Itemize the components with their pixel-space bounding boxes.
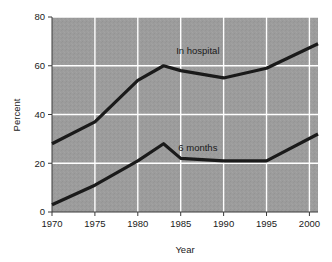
y-tick-label: 60 <box>34 60 45 71</box>
x-tick-label: 1985 <box>170 218 191 229</box>
x-tick-label: 1975 <box>84 218 105 229</box>
x-axis-label: Year <box>175 244 194 255</box>
x-tick-label: 1970 <box>41 218 62 229</box>
x-tick-label: 2000 <box>299 218 320 229</box>
y-axis-label: Percent <box>11 98 22 131</box>
x-tick-label: 1980 <box>127 218 148 229</box>
y-tick-label: 80 <box>34 11 45 22</box>
series-label-1: 6 months <box>178 142 217 153</box>
y-tick-label: 20 <box>34 158 45 169</box>
series-label-0: In hospital <box>176 45 219 56</box>
x-tick-label: 1990 <box>213 218 234 229</box>
y-tick-label: 0 <box>40 206 45 217</box>
line-chart: 020406080 1970197519801985199019952000 P… <box>0 0 332 262</box>
y-tick-label: 40 <box>34 109 45 120</box>
x-tick-label: 1995 <box>256 218 277 229</box>
